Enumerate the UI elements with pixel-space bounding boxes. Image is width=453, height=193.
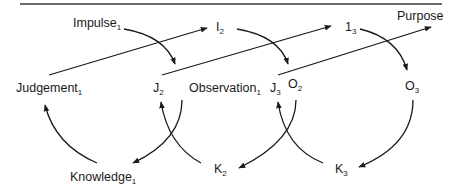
node-purpose: Purpose <box>397 9 444 23</box>
node-k3: K3 <box>335 162 348 176</box>
node-j2: J2 <box>153 81 164 95</box>
node-o3: O3 <box>405 79 419 93</box>
node-knowledge1: Knowledge1 <box>70 170 136 184</box>
node-i3: 13 <box>345 20 356 34</box>
edge-impulse1-j2 <box>124 29 175 64</box>
node-impulse1: Impulse1 <box>73 16 121 30</box>
node-judgement1: Judgement1 <box>16 81 82 95</box>
edge-observation1-knowledge1 <box>133 100 182 163</box>
node-observation1: Observation1 <box>189 81 261 95</box>
edge-o3-k3 <box>359 100 413 167</box>
node-k2: K2 <box>214 162 227 176</box>
edge-o2-k2 <box>239 100 296 168</box>
edge-judgement1-i2 <box>49 28 207 75</box>
edge-i3-o3 <box>360 29 407 70</box>
node-j3: J3 <box>270 81 281 95</box>
node-i2: I2 <box>216 20 224 34</box>
node-o2: O2 <box>288 77 302 91</box>
edge-knowledge1-judgement1 <box>45 105 97 163</box>
